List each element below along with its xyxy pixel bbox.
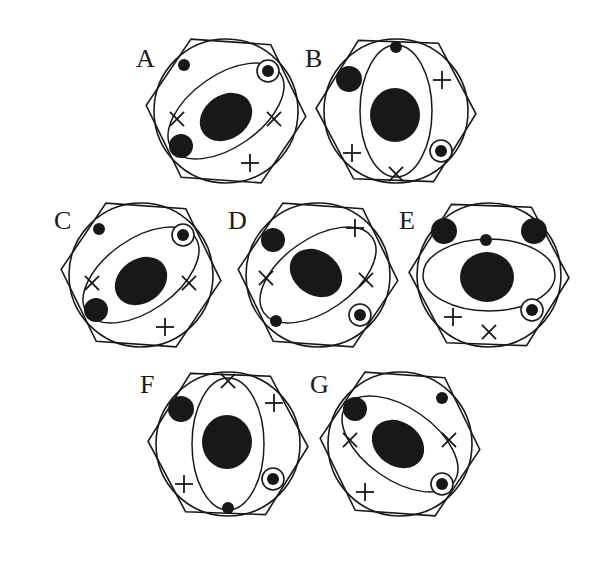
small-orbit-dot [93, 223, 105, 235]
small-orbit-dot [178, 59, 190, 71]
plus-mark-icon [444, 308, 462, 326]
plus-mark-icon [241, 154, 259, 172]
medium-dot [431, 218, 457, 244]
core-ellipse [105, 247, 176, 315]
small-orbit-dot [480, 234, 492, 246]
core-ellipse [202, 415, 252, 469]
ring-dot-inner-icon [526, 304, 538, 316]
panel-g [300, 344, 500, 544]
core-ellipse [460, 252, 514, 302]
small-orbit-dot [270, 315, 282, 327]
panel-f [128, 344, 328, 544]
medium-dot [336, 66, 362, 92]
figure-sheet: ABCDEFG [0, 0, 593, 577]
plus-mark-icon [265, 394, 283, 412]
cross-mark-icon [359, 273, 373, 287]
medium-dot [343, 397, 367, 421]
small-orbit-dot [222, 502, 234, 514]
plus-mark-icon [346, 219, 364, 237]
ring-dot-inner-icon [262, 65, 274, 77]
medium-dot [168, 396, 194, 422]
medium-dot [261, 228, 285, 252]
small-orbit-dot [436, 392, 448, 404]
plus-mark-icon [433, 71, 451, 89]
ring-dot-inner-icon [354, 309, 366, 321]
plus-mark-icon [175, 475, 193, 493]
cross-mark-icon [221, 374, 235, 388]
cross-mark-icon [482, 325, 496, 339]
ring-dot-inner-icon [177, 229, 189, 241]
plus-mark-icon [343, 144, 361, 162]
medium-dot [84, 298, 108, 322]
core-ellipse [362, 410, 433, 478]
medium-dot [521, 218, 547, 244]
cross-mark-icon [442, 433, 456, 447]
small-orbit-dot [390, 41, 402, 53]
cross-mark-icon [259, 271, 273, 285]
plus-mark-icon [156, 318, 174, 336]
medium-dot [169, 134, 193, 158]
ring-dot-inner-icon [436, 478, 448, 490]
core-ellipse [370, 88, 420, 142]
core-ellipse [280, 239, 351, 307]
ring-dot-inner-icon [267, 473, 279, 485]
ring-dot-inner-icon [435, 145, 447, 157]
core-ellipse [190, 83, 261, 151]
plus-mark-icon [356, 483, 374, 501]
cross-mark-icon [343, 433, 357, 447]
